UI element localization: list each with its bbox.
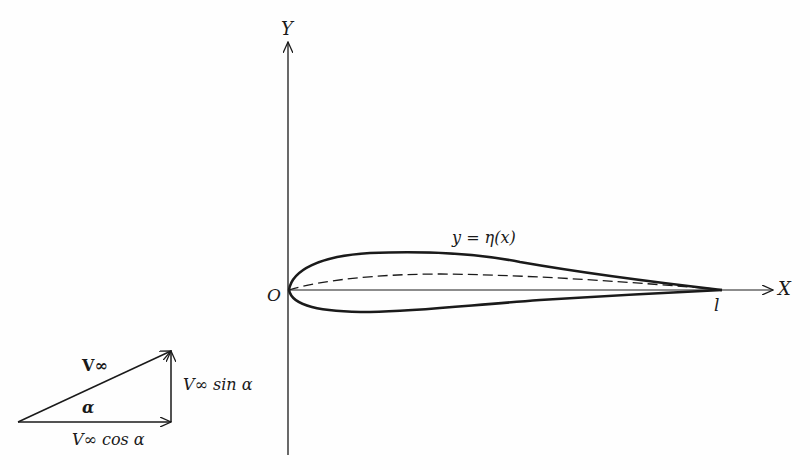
diagram-lines bbox=[0, 0, 810, 470]
angle-alpha-label: α bbox=[82, 398, 94, 417]
v-infinity-label: V∞ bbox=[82, 356, 108, 375]
surface-equation-label: y = η(x) bbox=[452, 228, 516, 247]
v-sin-label: V∞ sin α bbox=[183, 375, 253, 394]
origin-label: O bbox=[267, 285, 281, 305]
y-axis-label: Y bbox=[281, 18, 293, 39]
x-axis-label: X bbox=[778, 278, 791, 299]
v-cos-label: V∞ cos α bbox=[72, 430, 145, 449]
airfoil-lower-surface bbox=[289, 290, 722, 312]
airfoil-diagram: Y X O l y = η(x) V∞ α V∞ sin α V∞ cos α bbox=[0, 0, 810, 470]
chord-end-label: l bbox=[714, 295, 719, 315]
